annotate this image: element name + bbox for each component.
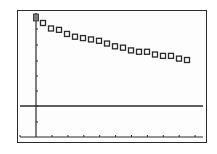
- data-point-marker: [73, 34, 78, 39]
- data-point-marker: [49, 26, 54, 31]
- data-point-marker: [121, 45, 126, 50]
- data-points: [41, 21, 190, 63]
- data-point-marker: [145, 49, 150, 54]
- axes: [20, 13, 203, 137]
- data-point-marker: [169, 53, 174, 58]
- data-point-marker: [153, 52, 158, 57]
- data-point-marker: [81, 36, 86, 41]
- data-point-marker: [137, 49, 142, 54]
- data-point-marker: [65, 31, 70, 36]
- data-point-marker: [129, 48, 134, 53]
- data-point-marker: [113, 44, 118, 49]
- data-point-marker: [105, 41, 110, 46]
- data-point-marker: [57, 27, 62, 32]
- data-point-marker: [177, 56, 182, 61]
- data-point-marker: [89, 37, 94, 42]
- scatter-plot: [0, 0, 217, 154]
- data-point-marker: [41, 21, 46, 26]
- data-point-marker: [161, 53, 166, 58]
- data-point-marker: [97, 38, 102, 43]
- data-point-marker: [185, 58, 190, 63]
- trace-cursor-icon: [34, 14, 39, 21]
